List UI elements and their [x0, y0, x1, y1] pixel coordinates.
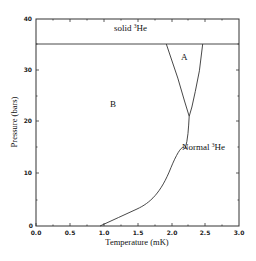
- y-tick-labels: 0 10 20 30 40: [24, 15, 33, 229]
- superfluid-normal-transition-curve: [100, 116, 189, 226]
- y-tick-label: 30: [24, 66, 32, 73]
- x-tick-labels: 0.0 0.5 1.0 1.5 2.0 2.5 3.0: [31, 229, 245, 236]
- a-phase-label: A: [181, 52, 188, 62]
- x-tick-label: 2.0: [167, 229, 178, 236]
- y-tick-label: 0: [29, 222, 33, 229]
- x-ticks: [36, 19, 222, 226]
- x-tick-label: 3.0: [234, 229, 245, 236]
- y-tick-label: 20: [24, 117, 32, 124]
- y-tick-label: 10: [24, 169, 32, 176]
- y-axis-title: Pressure (bars): [9, 96, 19, 147]
- x-tick-label: 1.0: [99, 229, 110, 236]
- y-ticks: [36, 44, 239, 200]
- phase-boundaries: [36, 44, 239, 226]
- plot-frame: [36, 19, 239, 226]
- normal-he3-label: Normal 3He: [182, 142, 225, 152]
- x-axis-title: Temperature (mK): [105, 237, 169, 247]
- x-tick-label: 0.0: [31, 229, 42, 236]
- phase-diagram: 0.0 0.5 1.0 1.5 2.0 2.5 3.0 0 10 20 30 4…: [0, 0, 256, 261]
- b-phase-label: B: [110, 99, 116, 109]
- x-tick-label: 2.5: [200, 229, 211, 236]
- solid-he3-label: solid 3He: [114, 23, 147, 33]
- x-tick-label: 1.5: [133, 229, 144, 236]
- a-normal-transition-line: [189, 44, 203, 116]
- x-tick-label: 0.5: [65, 229, 76, 236]
- y-tick-label: 40: [24, 15, 32, 22]
